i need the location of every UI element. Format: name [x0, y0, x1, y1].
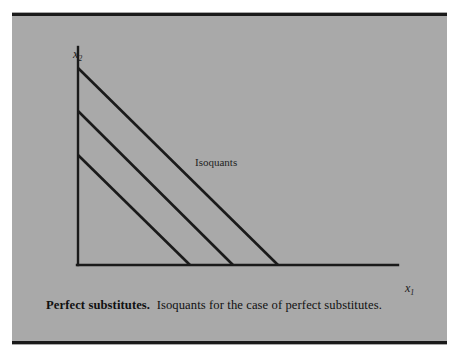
figure-caption-title: Perfect substitutes. — [46, 298, 150, 312]
x-axis-label: x1 — [405, 282, 414, 297]
isoquants-annotation-label: Isoquants — [195, 157, 237, 168]
isoquant-line-3 — [78, 68, 278, 265]
y-axis-label-subscript: 2 — [78, 54, 82, 63]
figure-caption-body: Isoquants for the case of perfect substi… — [157, 298, 382, 312]
figure-root: x2 x1 Isoquants Perfect substitutes. Iso… — [0, 0, 460, 355]
figure-bottom-rule — [12, 341, 447, 344]
figure-caption: Perfect substitutes. Isoquants for the c… — [46, 297, 422, 314]
y-axis-label: x2 — [73, 48, 82, 63]
plot-area: x2 x1 Isoquants — [12, 12, 447, 345]
isoquant-line-2 — [78, 111, 233, 265]
isoquant-line-1 — [78, 155, 190, 265]
